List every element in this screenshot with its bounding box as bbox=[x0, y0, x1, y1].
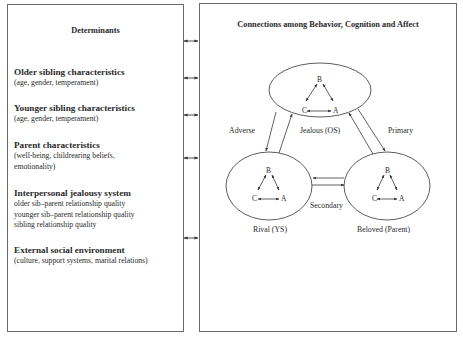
bca-triangle-beloved bbox=[377, 175, 397, 199]
node-rival-b: B bbox=[266, 166, 271, 175]
bca-triangle-jealous bbox=[306, 84, 333, 111]
edge-primary-label: Primary bbox=[388, 126, 413, 135]
node-rival-c: C bbox=[252, 194, 257, 203]
bca-triangle-rival bbox=[258, 175, 279, 199]
node-beloved-b: B bbox=[385, 166, 390, 175]
node-jealous-c: C bbox=[302, 106, 307, 115]
node-jealous-a: A bbox=[333, 106, 338, 115]
node-beloved-label: Beloved (Parent) bbox=[357, 225, 410, 234]
node-beloved-ellipse bbox=[344, 152, 430, 220]
edge-secondary-label: Secondary bbox=[310, 201, 343, 210]
node-rival-label: Rival (YS) bbox=[253, 225, 287, 234]
panel-connector-arrows bbox=[184, 41, 198, 238]
node-rival-ellipse bbox=[226, 152, 312, 220]
edge-adverse-up bbox=[279, 114, 292, 153]
edge-primary-down bbox=[358, 109, 385, 151]
edge-primary-up bbox=[349, 113, 373, 154]
edge-adverse-label: Adverse bbox=[229, 126, 255, 135]
node-jealous-b: B bbox=[317, 75, 322, 84]
node-jealous-ellipse bbox=[269, 63, 371, 117]
node-edges bbox=[266, 109, 385, 185]
node-rival-a: A bbox=[281, 194, 286, 203]
diagram-canvas bbox=[0, 0, 463, 338]
node-beloved-a: A bbox=[399, 194, 404, 203]
edge-adverse-down bbox=[266, 112, 276, 151]
node-beloved-c: C bbox=[372, 194, 377, 203]
node-jealous-label: Jealous (OS) bbox=[300, 126, 340, 135]
